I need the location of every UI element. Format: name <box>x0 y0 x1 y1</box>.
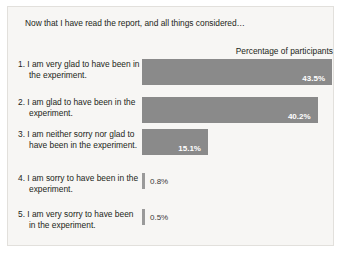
bar-row-label: 3. I am neither sorry nor glad to have b… <box>18 129 140 151</box>
bar-row-label: 5. I am very sorry to have been in the e… <box>18 209 140 231</box>
bar-value-label: 40.2% <box>142 112 311 121</box>
bar-row-label: 1. I am very glad to have been in the ex… <box>18 59 140 81</box>
column-header-percentage: Percentage of participants <box>148 46 333 57</box>
bar <box>142 209 145 225</box>
chart-headline: Now that I have read the report, and all… <box>25 18 245 29</box>
bar-value-label: 0.8% <box>150 177 168 186</box>
chart-panel: Now that I have read the report, and all… <box>7 6 334 246</box>
bar <box>142 173 145 189</box>
bar-row-label: 4. I am sorry to have been in the experi… <box>18 173 140 195</box>
bar-value-label: 43.5% <box>142 74 325 83</box>
bar-value-label: 0.5% <box>150 213 168 222</box>
bar-value-label: 15.1% <box>142 144 201 153</box>
bar-row-label: 2. I am glad to have been in the experim… <box>18 97 140 119</box>
